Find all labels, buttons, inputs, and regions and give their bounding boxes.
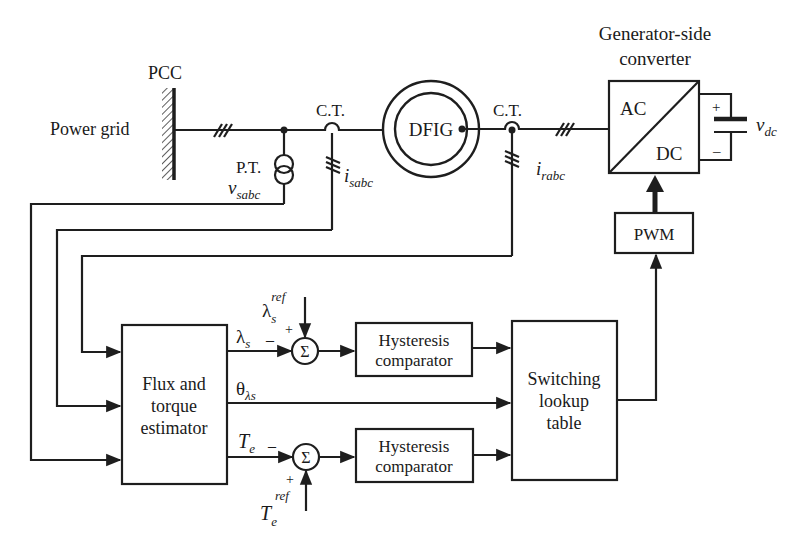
hyst2-line1: Hysteresis bbox=[379, 437, 450, 456]
sum2-minus: – bbox=[267, 437, 277, 454]
current-transformer-1-icon bbox=[326, 133, 340, 230]
t-e-label: Te bbox=[238, 430, 255, 456]
v-sabc-label: vsabc bbox=[228, 177, 260, 202]
pwm-label: PWM bbox=[634, 225, 675, 244]
ct1-label: C.T. bbox=[316, 101, 345, 120]
sum2-plus: + bbox=[286, 472, 294, 487]
cap-minus-label: – bbox=[712, 143, 721, 159]
hyst1-line2: comparator bbox=[375, 351, 453, 370]
t-e-ref-label: Teref bbox=[260, 488, 291, 529]
grid-line bbox=[174, 123, 383, 137]
sum1-minus: – bbox=[265, 331, 275, 348]
dfig-label: DFIG bbox=[409, 119, 454, 140]
ac-label: AC bbox=[620, 98, 646, 119]
gen-side-title-line1: Generator-side bbox=[599, 23, 712, 44]
dtc-block-diagram: PCC Power grid P.T. vsabc C.T. isabc DFI… bbox=[0, 0, 802, 554]
theta-lambda-s-label: θλs bbox=[236, 378, 256, 403]
dc-label: DC bbox=[656, 143, 682, 164]
switch-to-pwm-wire bbox=[617, 255, 656, 400]
cap-plus-label: + bbox=[712, 99, 720, 115]
flux-line3: estimator bbox=[141, 418, 208, 438]
switch-line1: Switching bbox=[527, 369, 600, 389]
hyst2-line2: comparator bbox=[375, 457, 453, 476]
flux-line1: Flux and bbox=[142, 374, 206, 394]
dc-capacitor-icon bbox=[699, 94, 747, 160]
ac-dc-converter bbox=[609, 81, 699, 173]
sum1-sigma: Σ bbox=[300, 343, 309, 360]
lambda-s-label: λs bbox=[236, 326, 250, 351]
v-dc-label: vdc bbox=[756, 114, 777, 139]
i-sabc-label: isabc bbox=[344, 165, 373, 190]
rotor-line bbox=[462, 122, 609, 136]
switch-line3: table bbox=[547, 413, 582, 433]
pcc-bus bbox=[162, 88, 174, 180]
ct2-label: C.T. bbox=[493, 101, 522, 120]
power-grid-label: Power grid bbox=[50, 119, 130, 139]
lambda-s-ref-label: λsref bbox=[262, 289, 288, 326]
sum1-plus: + bbox=[285, 322, 293, 337]
sum2-sigma: Σ bbox=[301, 449, 310, 466]
ct2-junction-dot bbox=[509, 127, 516, 134]
hyst1-line1: Hysteresis bbox=[379, 331, 450, 350]
current-transformer-2-icon bbox=[505, 133, 519, 256]
pwm-to-converter-arrow bbox=[646, 175, 664, 213]
gen-side-title-line2: converter bbox=[619, 48, 691, 69]
flux-line2: torque bbox=[151, 396, 197, 416]
pcc-label: PCC bbox=[148, 63, 182, 83]
switch-line2: lookup bbox=[539, 391, 589, 411]
pt-label: P.T. bbox=[236, 158, 261, 177]
potential-transformer-icon bbox=[275, 130, 293, 204]
i-rabc-label: irabc bbox=[536, 158, 565, 183]
